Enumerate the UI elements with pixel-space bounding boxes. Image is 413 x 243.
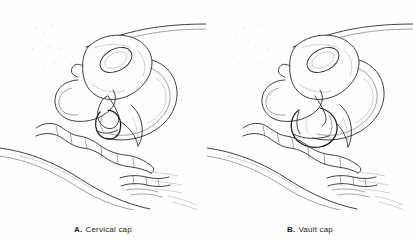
pubis-seg-3 xyxy=(365,178,366,187)
perineal-contour-lower xyxy=(0,156,145,210)
rugae-divider-6 xyxy=(340,158,341,168)
pubis-hatch-2 xyxy=(338,194,369,197)
anatomy-drawing-b xyxy=(207,0,413,210)
pubis-hatch-1 xyxy=(333,189,365,192)
rugae-divider-3 xyxy=(85,139,87,149)
rugae-divider-6 xyxy=(133,158,134,168)
lower-tissue-2 xyxy=(379,202,404,210)
pubis-hatch-3 xyxy=(357,172,385,176)
caption-panel-a: A.Cervical cap xyxy=(0,225,206,234)
uterine-fundus-notch xyxy=(71,64,83,77)
pubis-hatch-4 xyxy=(359,181,388,185)
illustration-vault-cap xyxy=(207,0,413,210)
bladder-shading xyxy=(59,88,78,115)
rugae-divider-4 xyxy=(308,147,309,158)
vaginal-canal-posterior xyxy=(121,122,138,146)
stipple-shading xyxy=(26,26,73,73)
pubis-hatch-5 xyxy=(362,189,389,193)
perineal-contour-lower xyxy=(207,156,352,210)
rugae-upper-edge xyxy=(243,123,356,164)
rugae-divider-1 xyxy=(263,126,265,136)
panel-a-caption-text: Cervical cap xyxy=(85,225,131,234)
lower-tissue-1 xyxy=(168,196,196,205)
vault-cap-shading xyxy=(306,118,309,134)
stipple-shading xyxy=(233,26,280,73)
perineal-shading xyxy=(20,156,92,189)
rugae-divider-5 xyxy=(117,153,118,164)
pubis-hatch-5 xyxy=(155,189,182,193)
symphysis-pubis xyxy=(327,172,389,197)
rugae-divider-2 xyxy=(277,133,279,143)
pubis-bottom-edge xyxy=(328,184,377,187)
symphysis-pubis xyxy=(120,172,182,197)
panel-b-label: B. xyxy=(287,225,295,234)
rugae-divider-1 xyxy=(56,126,58,136)
pubis-hatch-1 xyxy=(126,189,158,192)
vault-cap-inner-left xyxy=(297,112,300,134)
perineal-shading xyxy=(227,156,299,189)
panel-b-caption-text: Vault cap xyxy=(298,225,333,234)
pubis-hatch-4 xyxy=(152,181,181,185)
pubis-top-edge xyxy=(327,176,376,179)
vault-cap-inner-right xyxy=(329,115,332,136)
caption-panel-b: B.Vault cap xyxy=(207,225,413,234)
vault-cap-rim xyxy=(293,134,329,138)
pubis-bottom-edge xyxy=(121,184,170,187)
pubis-seg-3 xyxy=(158,178,159,187)
cervix-outline xyxy=(98,96,119,129)
rugae-right-cap xyxy=(149,164,154,173)
figure-container: A.Cervical cap xyxy=(0,0,413,243)
panel-vault-cap: B.Vault cap xyxy=(207,0,413,243)
rugae-right-cap xyxy=(356,164,361,173)
pubis-hatch-2 xyxy=(131,194,162,197)
cervical-cap-rim xyxy=(97,130,118,133)
panel-cervical-cap: A.Cervical cap xyxy=(0,0,206,243)
pubis-top-edge xyxy=(120,176,169,179)
rugae-divider-2 xyxy=(70,133,72,143)
vaginal-canal-anterior xyxy=(340,105,351,147)
rectum-shading xyxy=(148,78,166,123)
rectum-shading xyxy=(355,78,373,123)
lower-tissue-1 xyxy=(375,196,403,205)
illustration-cervical-cap xyxy=(0,0,206,210)
vaginal-canal-shading xyxy=(133,118,138,140)
rugae-divider-5 xyxy=(324,153,325,164)
pubis-hatch-3 xyxy=(150,172,178,176)
anatomy-drawing-a xyxy=(0,0,206,210)
panel-a-label: A. xyxy=(74,225,82,234)
rugae-upper-edge xyxy=(36,123,149,164)
uterine-fundus-notch xyxy=(278,64,290,77)
cervix-outline xyxy=(315,96,326,126)
rugae-divider-3 xyxy=(292,139,294,149)
bladder-shading xyxy=(266,88,285,115)
lower-tissue-2 xyxy=(172,202,197,210)
rugae-divider-4 xyxy=(101,147,102,158)
